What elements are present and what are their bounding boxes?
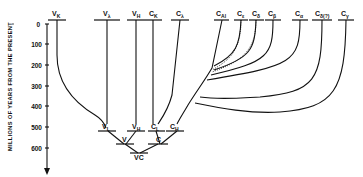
node-label-vl: VL <box>102 123 110 132</box>
node-label-c: C <box>156 136 161 143</box>
axis-title: MILLIONS OF YEARS FROM THE PRESENT <box>7 22 13 151</box>
gene-label-vh: VH <box>132 10 141 19</box>
node-label-cl: CL <box>151 123 159 132</box>
tick-label: 200 <box>31 62 42 69</box>
time-axis: 0 100 200 300 400 500 600 MILLIONS OF YE… <box>7 21 50 176</box>
gene-evolution-diagram: 0 100 200 300 400 500 600 MILLIONS OF YE… <box>0 0 363 177</box>
tick-label: 500 <box>31 124 42 131</box>
node-label-v: V <box>122 136 127 143</box>
node-label-vh: VH <box>132 123 141 132</box>
gene-label-cdelta-uncertain: Cδ(?) <box>315 10 330 19</box>
gene-label-clambda: Cλ <box>176 10 184 19</box>
gene-label-calpha: Cα <box>295 10 304 19</box>
gene-label-cepsilon: Cε <box>237 10 245 19</box>
lineages <box>57 20 346 128</box>
tick-label: 600 <box>31 145 42 152</box>
node-label-ch: CH <box>170 123 179 132</box>
tick-label: 100 <box>31 41 42 48</box>
tick-label: 300 <box>31 83 42 90</box>
ancestral-labels: VL VH CL CH V C VC <box>102 123 179 161</box>
gene-label-vlambda: Vλ <box>103 10 111 19</box>
gene-label-ck: CK <box>149 10 158 19</box>
gene-label-cdelta: Cδ <box>252 10 260 19</box>
top-labels: VK Vλ VH CK Cλ CAl Cε Cδ Cβ Cα Cδ(?) Cγ <box>52 10 349 19</box>
node-label-vc: VC <box>134 154 144 161</box>
tick-label: 400 <box>31 103 42 110</box>
gene-label-cgamma: Cγ <box>341 10 349 19</box>
tick-label: 0 <box>36 21 40 28</box>
ancestral-bars <box>98 131 184 153</box>
gene-label-cal: CAl <box>216 10 227 19</box>
gene-label-cbeta: Cβ <box>268 10 276 19</box>
gene-label-vk: VK <box>52 10 61 19</box>
